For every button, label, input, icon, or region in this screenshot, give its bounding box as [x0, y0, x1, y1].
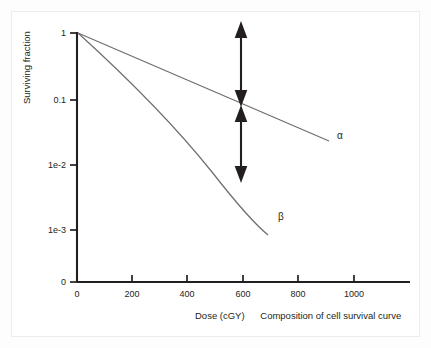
x-tick-label-0: 0	[62, 290, 92, 299]
y-tick-label-0: 0	[32, 278, 66, 287]
beta-curve-label: β	[278, 212, 284, 222]
x-tick-label-200: 200	[117, 290, 147, 299]
lower-difference-arrow	[236, 108, 246, 180]
y-axis-title: Surviving fraction	[22, 90, 32, 104]
y-axis-ticks	[70, 33, 77, 282]
x-tick-label-600: 600	[228, 290, 258, 299]
x-tick-label-1000: 1000	[339, 290, 369, 299]
y-tick-label-1e-3: 1e-3	[28, 226, 66, 235]
figure-caption-row: Dose (cGY) Composition of cell survival …	[195, 311, 401, 321]
figure-screenshot: 1 0.1 1e-2 1e-3 0 0 200 400 600 800 1000…	[0, 0, 431, 348]
y-tick-label-0.1: 0.1	[32, 96, 66, 105]
upper-difference-arrow	[236, 24, 246, 104]
x-tick-label-800: 800	[283, 290, 313, 299]
x-tick-label-400: 400	[172, 290, 202, 299]
y-tick-label-1: 1	[32, 29, 66, 38]
alpha-curve-label: α	[337, 131, 343, 141]
figure-frame: 1 0.1 1e-2 1e-3 0 0 200 400 600 800 1000…	[11, 11, 420, 337]
y-tick-label-1e-2: 1e-2	[28, 161, 66, 170]
alpha-curve	[78, 33, 329, 141]
figure-caption-title: Composition of cell survival curve	[260, 310, 401, 321]
beta-curve	[78, 33, 268, 235]
x-axis-title: Dose (cGY)	[195, 310, 245, 321]
